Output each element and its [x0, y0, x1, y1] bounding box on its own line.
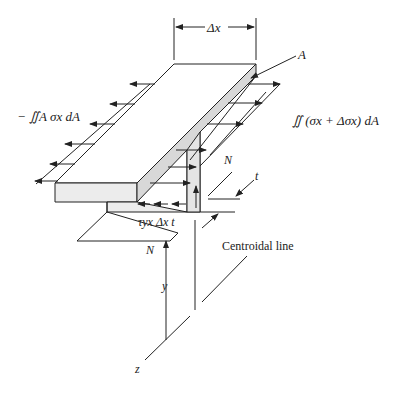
right-force-label: ∬ (σx + Δσx) dA [292, 113, 379, 128]
neutral-top-label: N [223, 153, 233, 167]
y-axis-label: y [161, 279, 168, 293]
centroidal-label: Centroidal line [222, 239, 294, 253]
diagram-canvas: Δx − ∬A σx dA ∬ (σx + Δσx) dA A N [0, 0, 394, 393]
z-axis [145, 316, 190, 360]
thickness-label: t [255, 169, 259, 183]
area-label: A [297, 47, 306, 62]
z-axis-label: z [134, 362, 140, 376]
left-force-label: − ∬A σx dA [17, 109, 80, 124]
flange-front-face [55, 183, 137, 202]
shear-flow-diagram: Δx − ∬A σx dA ∬ (σx + Δσx) dA A N [0, 0, 394, 393]
thickness-dimension [200, 180, 254, 228]
delta-x-label: Δx [206, 20, 221, 35]
centroidal-leader [202, 256, 247, 302]
neutral-bottom-label: N [145, 243, 155, 257]
